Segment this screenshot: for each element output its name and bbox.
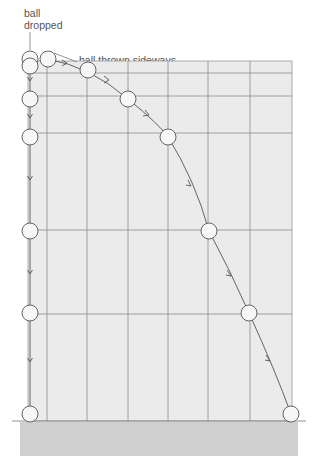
dropped-ball — [22, 406, 38, 422]
thrown-ball — [40, 51, 56, 67]
thrown-ball — [80, 62, 96, 78]
dropped-ball — [22, 58, 38, 74]
dropped-ball — [22, 305, 38, 321]
ground — [20, 422, 298, 456]
thrown-ball — [160, 129, 176, 145]
dropped-ball — [22, 223, 38, 239]
dropped-ball — [22, 129, 38, 145]
projectile-diagram — [0, 0, 317, 475]
thrown-ball — [241, 305, 257, 321]
thrown-ball — [120, 91, 136, 107]
dropped-ball — [22, 91, 38, 107]
thrown-ball — [283, 406, 299, 422]
grid-background — [28, 61, 292, 421]
thrown-ball — [201, 223, 217, 239]
